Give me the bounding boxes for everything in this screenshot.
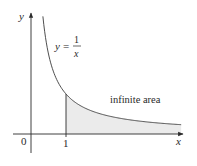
curve-y-equals-1-over-x [43, 16, 181, 124]
tick-label-1: 1 [63, 137, 69, 149]
infinite-area-label: infinite area [110, 94, 161, 105]
function-label-denominator: x [73, 48, 79, 59]
x-axis-label: x [175, 135, 181, 147]
origin-label: 0 [21, 135, 27, 147]
y-axis-label: y [18, 10, 24, 22]
function-label-lhs: y [54, 40, 60, 52]
function-label-numerator: 1 [74, 34, 79, 45]
diagram-canvas: y x 0 1 y = 1 x infinite area [0, 0, 197, 166]
function-label-equals: = [63, 40, 69, 52]
function-label: y = 1 x [54, 34, 81, 59]
